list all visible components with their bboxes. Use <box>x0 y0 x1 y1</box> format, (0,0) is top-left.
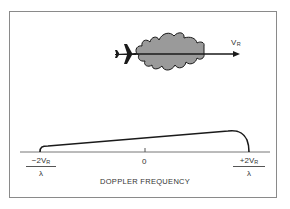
axis-right-numerator: +2VR <box>233 156 265 167</box>
axis-center-label: 0 <box>142 157 147 166</box>
axis-right-numerator-text: +2V <box>240 156 254 165</box>
axis-left-denominator: λ <box>26 167 56 178</box>
velocity-label: VR <box>231 38 241 47</box>
axis-left-numerator: −2VR <box>26 156 56 167</box>
axis-left-numerator-text: −2V <box>32 156 46 165</box>
axis-left-numerator-sub: R <box>46 159 50 165</box>
axis-left-label: −2VR λ <box>26 156 56 178</box>
axis-right-label: +2VR λ <box>233 156 265 178</box>
aircraft-icon <box>115 44 137 64</box>
doppler-axis <box>20 148 270 152</box>
antenna-beam-lobe-icon <box>136 33 204 70</box>
axis-title: DOPPLER FREQUENCY <box>100 177 190 186</box>
velocity-label-sub: R <box>237 41 241 47</box>
axis-right-denominator: λ <box>233 167 265 178</box>
axis-right-numerator-sub: R <box>254 159 258 165</box>
